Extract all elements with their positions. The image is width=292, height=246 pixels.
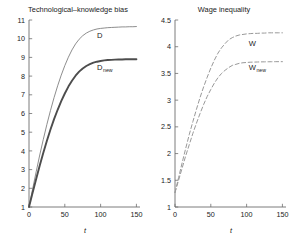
series-annotation-d: D [97,31,103,40]
series-annotation-w_new: Wnew [249,63,266,73]
series-annotation-subscript: new [103,67,113,73]
curves-right [175,33,282,193]
chart-svg-left: Technological–knowledge bias 12345678910… [0,0,146,246]
y-tick-label: 3.5 [161,69,171,78]
panel-technological-knowledge-bias: Technological–knowledge bias 12345678910… [0,0,146,246]
series-annotation-d_new: Dnew [97,63,113,73]
x-tick-label: 0 [173,210,177,219]
x-tick-label: 0 [27,210,31,219]
y-tick-label: 9 [21,53,25,62]
panel-wage-inequality: Wage inequality 11.522.533.544.505010015… [146,0,292,246]
x-tick-label: 150 [130,210,142,219]
axes-right [175,20,286,207]
series-annotations-right: WWnew [249,39,266,74]
series-annotation-w: W [249,39,257,48]
y-tick-label: 4 [21,147,25,156]
y-tick-label: 11 [18,16,25,25]
y-tick-label: 6 [21,109,25,118]
y-tick-label: 4 [167,42,171,51]
series-line-d [29,27,136,207]
y-tick-label: 5 [21,128,25,137]
chart-title-right: Wage inequality [198,5,251,14]
x-tick-label: 50 [207,210,215,219]
series-annotation-subscript: new [256,67,266,73]
chart-title-left: Technological–knowledge bias [28,5,128,14]
x-tick-label: 100 [241,210,253,219]
curves-left [29,27,136,207]
y-tick-label: 2 [21,184,25,193]
x-tick-label: 100 [95,210,107,219]
y-tick-label: 4.5 [161,16,171,25]
x-tick-label: 50 [61,210,69,219]
y-tick-label: 10 [17,34,25,43]
y-tick-label: 8 [21,72,25,81]
y-tick-label: 1 [21,203,25,212]
figure-two-panel-line-charts: Technological–knowledge bias 12345678910… [0,0,292,246]
y-tick-label: 2.5 [161,122,171,131]
x-axis-label-left: t [84,226,87,235]
tick-labels-right: 11.522.533.544.5050100150 [161,16,288,219]
tick-labels-left: 1234567891011050100150 [17,16,142,219]
y-tick-label: 3 [167,96,171,105]
y-tick-label: 1 [167,203,171,212]
chart-svg-right: Wage inequality 11.522.533.544.505010015… [146,0,292,246]
x-tick-label: 150 [276,210,288,219]
y-tick-label: 3 [21,165,25,174]
series-annotations-left: DDnew [97,31,113,73]
x-axis-label-right: t [230,226,233,235]
y-tick-label: 7 [21,90,25,99]
axes-left [29,20,140,207]
series-line-w [175,33,282,193]
y-tick-label: 1.5 [161,176,171,185]
y-tick-label: 2 [167,149,171,158]
